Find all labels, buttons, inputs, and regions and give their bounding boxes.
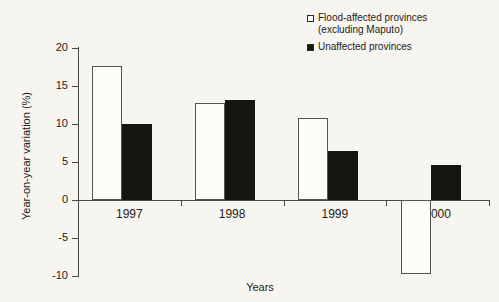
bar-1999-series2 bbox=[328, 151, 358, 200]
y-tick-label: 15 bbox=[28, 80, 68, 91]
y-tick-mark bbox=[72, 124, 78, 125]
x-tick-mark bbox=[78, 200, 79, 206]
x-tick-mark bbox=[489, 200, 490, 206]
bar-1997-series2 bbox=[122, 124, 152, 200]
x-tick-mark bbox=[181, 200, 182, 206]
y-axis-line bbox=[78, 47, 79, 277]
bar-1997-series1 bbox=[92, 66, 122, 200]
legend-swatch-filled-icon bbox=[307, 44, 314, 51]
chart-figure: Flood-affected provinces (excluding Mapu… bbox=[0, 0, 499, 302]
legend-item-unaffected: Unaffected provinces bbox=[307, 41, 497, 53]
x-tick-mark bbox=[386, 200, 387, 206]
legend-label-flood-affected: Flood-affected provinces (excluding Mapu… bbox=[318, 12, 427, 35]
x-tick-mark bbox=[284, 200, 285, 206]
y-tick-label: -5 bbox=[28, 232, 68, 243]
y-tick-label: 20 bbox=[28, 42, 68, 53]
bar-1998-series1 bbox=[195, 103, 225, 200]
bar-2000-series2 bbox=[431, 165, 461, 200]
y-tick-mark bbox=[72, 276, 78, 277]
legend-label-unaffected: Unaffected provinces bbox=[318, 41, 412, 53]
y-axis-title: Year-on-year variation (%) bbox=[20, 56, 32, 256]
bar-1998-series2 bbox=[225, 100, 255, 200]
y-tick-mark bbox=[72, 238, 78, 239]
x-tick-label-1999: 1999 bbox=[300, 207, 370, 221]
y-tick-label: 10 bbox=[28, 118, 68, 129]
y-tick-label: 0 bbox=[28, 194, 68, 205]
legend-swatch-hollow-icon bbox=[307, 15, 314, 22]
x-axis-title: Years bbox=[200, 281, 320, 293]
legend-item-flood-affected: Flood-affected provinces (excluding Mapu… bbox=[307, 12, 497, 35]
y-tick-label: 5 bbox=[28, 156, 68, 167]
bar-1999-series1 bbox=[298, 118, 328, 200]
y-tick-mark bbox=[72, 48, 78, 49]
bar-2000-series1 bbox=[401, 200, 431, 274]
y-tick-mark bbox=[72, 162, 78, 163]
y-tick-label: -10 bbox=[28, 270, 68, 281]
x-tick-label-1997: 1997 bbox=[94, 207, 164, 221]
x-tick-label-1998: 1998 bbox=[197, 207, 267, 221]
chart-legend: Flood-affected provinces (excluding Mapu… bbox=[307, 12, 497, 55]
y-tick-mark bbox=[72, 86, 78, 87]
